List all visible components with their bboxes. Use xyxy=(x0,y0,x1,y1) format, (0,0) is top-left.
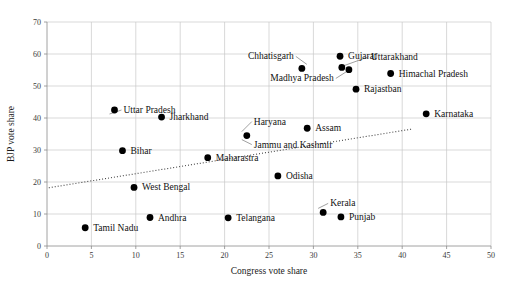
point-label: Tamil Nadu xyxy=(93,223,138,233)
data-point[interactable] xyxy=(387,70,394,77)
data-point[interactable] xyxy=(338,213,345,220)
point-label: Uttarakhand xyxy=(371,52,418,62)
data-point[interactable] xyxy=(204,154,211,161)
point-label: Odisha xyxy=(286,171,314,181)
y-tick-label: 0 xyxy=(37,242,41,251)
x-axis-title: Congress vote share xyxy=(231,266,308,276)
point-label: Punjab xyxy=(349,212,376,222)
x-tick-label: 20 xyxy=(221,251,229,260)
x-tick-label: 15 xyxy=(176,251,184,260)
point-label: Bihar xyxy=(130,146,152,156)
x-tick-label: 5 xyxy=(89,251,93,260)
data-point[interactable] xyxy=(131,184,138,191)
point-label: Karnataka xyxy=(434,109,474,119)
data-point[interactable] xyxy=(337,53,344,60)
point-label: Jammu and Kashmir xyxy=(254,140,333,150)
point-label: Haryana xyxy=(254,117,287,127)
point-label: Andhra xyxy=(158,213,187,223)
data-point[interactable] xyxy=(320,209,327,216)
point-label: Assam xyxy=(315,123,341,133)
point-label: Chhatisgarh xyxy=(248,51,294,61)
y-axis-title: BJP vote share xyxy=(6,106,16,162)
data-point[interactable] xyxy=(225,214,232,221)
point-label: Jharkhand xyxy=(170,112,209,122)
point-label: Madhya Pradesh xyxy=(270,73,334,83)
x-tick-label: 50 xyxy=(487,251,495,260)
y-tick-label: 70 xyxy=(33,18,41,27)
point-label: Telangana xyxy=(236,213,276,223)
data-point[interactable] xyxy=(353,86,360,93)
point-label: West Bengal xyxy=(142,182,190,192)
data-point[interactable] xyxy=(111,107,118,114)
x-tick-label: 45 xyxy=(443,251,451,260)
point-label: Maharastra xyxy=(216,153,260,163)
x-tick-label: 10 xyxy=(132,251,140,260)
point-label: Rajastban xyxy=(364,84,402,94)
data-point[interactable] xyxy=(338,64,345,71)
data-point[interactable] xyxy=(119,147,126,154)
data-point[interactable] xyxy=(274,173,281,180)
y-tick-label: 30 xyxy=(33,146,41,155)
x-tick-label: 30 xyxy=(309,251,317,260)
x-tick-label: 35 xyxy=(354,251,362,260)
data-point[interactable] xyxy=(243,132,250,139)
y-tick-label: 20 xyxy=(33,178,41,187)
y-tick-label: 60 xyxy=(33,50,41,59)
data-point[interactable] xyxy=(423,110,430,117)
x-tick-label: 25 xyxy=(265,251,273,260)
x-tick-label: 0 xyxy=(45,251,49,260)
data-point[interactable] xyxy=(298,65,305,72)
x-tick-label: 40 xyxy=(398,251,406,260)
point-labels-group: Uttar PradeshJharkhandChhatisgarhGujarat… xyxy=(93,51,474,233)
y-tick-label: 10 xyxy=(33,210,41,219)
point-label: Himachal Pradesh xyxy=(399,69,469,79)
data-point[interactable] xyxy=(304,125,311,132)
data-point[interactable] xyxy=(82,224,89,231)
data-point[interactable] xyxy=(346,66,353,73)
data-point[interactable] xyxy=(147,214,154,221)
point-label: Uttar Pradesh xyxy=(123,105,175,115)
point-label: Kerala xyxy=(330,198,356,208)
scatter-plot-chart: Uttar PradeshJharkhandChhatisgarhGujarat… xyxy=(0,0,506,289)
plot-canvas: Uttar PradeshJharkhandChhatisgarhGujarat… xyxy=(0,0,506,289)
y-tick-label: 40 xyxy=(33,114,41,123)
y-tick-label: 50 xyxy=(33,82,41,91)
